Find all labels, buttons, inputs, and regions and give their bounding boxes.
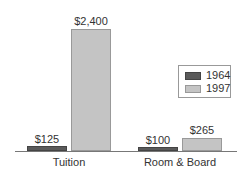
legend: 1964 1997 <box>178 65 231 98</box>
value-label-tuition-1964: $125 <box>17 133 77 145</box>
category-label-room-board: Room & Board <box>140 156 220 168</box>
bar-tuition-1997 <box>71 29 111 151</box>
legend-swatch-1997 <box>185 85 201 93</box>
category-label-tuition: Tuition <box>39 156 99 168</box>
bar-room-board-1997 <box>182 138 222 151</box>
value-label-room-board-1997: $265 <box>172 124 232 136</box>
legend-swatch-1964 <box>185 72 201 80</box>
legend-label-1997: 1997 <box>206 82 230 94</box>
value-label-tuition-1997: $2,400 <box>61 15 121 27</box>
legend-label-1964: 1964 <box>206 69 230 81</box>
x-axis-baseline <box>15 151 237 152</box>
